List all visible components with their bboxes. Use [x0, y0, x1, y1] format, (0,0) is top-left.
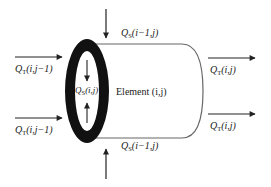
label-qt-left-bottom: QT(i,j−1) [15, 125, 53, 137]
label-qs-bottom: QS(i−1,j) [121, 141, 158, 153]
label-qs-top: QS(i−1,j) [121, 28, 158, 40]
label-element: Element (i,j) [116, 87, 167, 97]
label-qt-right-bottom: QT(i,j) [210, 121, 236, 133]
label-qt-right-top: QT(i,j) [210, 65, 236, 77]
label-qs-inner: QS(i,j) [75, 86, 98, 97]
label-qt-left-top: QT(i,j−1) [15, 64, 53, 76]
